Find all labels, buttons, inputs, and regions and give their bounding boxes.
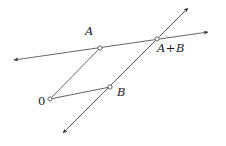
point-marker-b — [108, 85, 112, 89]
segment-origin-to-b — [50, 87, 110, 99]
vector-addition-diagram: 0 A B A+B — [0, 0, 226, 146]
diagram-canvas — [0, 0, 226, 146]
point-label-origin: 0 — [38, 96, 45, 108]
point-label-a: A — [85, 26, 93, 38]
point-label-sum: A+B — [157, 43, 184, 55]
point-label-b: B — [117, 87, 125, 99]
point-marker-a — [98, 46, 102, 50]
segment-origin-to-a — [50, 48, 100, 99]
point-marker-origin — [48, 97, 52, 101]
plus-operator: + — [165, 41, 176, 55]
point-label-sum-b: B — [176, 41, 184, 55]
line-through-b-and-sum — [63, 8, 188, 133]
